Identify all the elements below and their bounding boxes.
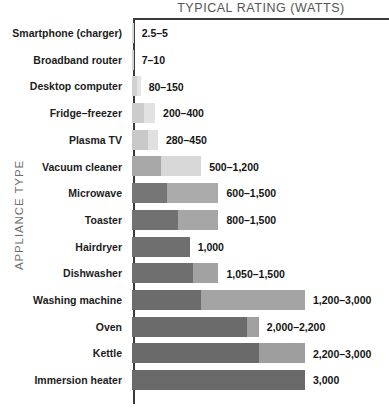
bar-area: 600–1,500: [128, 180, 389, 207]
bar-area: 3,000: [128, 367, 389, 394]
chart-row: Desktop computer80–150: [0, 73, 389, 100]
category-label: Kettle: [0, 348, 128, 359]
bar-segment-min: [132, 237, 190, 257]
bar-area: 500–1,200: [128, 153, 389, 180]
bar-value-label: 2,200–3,000: [313, 348, 371, 360]
bar-area: 1,200–3,000: [128, 287, 389, 314]
bar-value-label: 2,000–2,200: [267, 321, 325, 333]
bar-segment-max: [137, 76, 141, 96]
category-label: Immersion heater: [0, 375, 128, 386]
bar-segment-min: [132, 156, 161, 176]
chart-row: Toaster800–1,500: [0, 207, 389, 234]
bar-area: 1,050–1,500: [128, 260, 389, 287]
bar-area: 800–1,500: [128, 207, 389, 234]
bar-value-label: 800–1,500: [227, 214, 277, 226]
category-label: Broadband router: [0, 55, 128, 66]
bar-area: 80–150: [128, 73, 389, 100]
chart-row: Broadband router7–10: [0, 47, 389, 74]
bar-area: 7–10: [128, 47, 389, 74]
bar: [132, 343, 305, 363]
bar-segment-max: [167, 183, 219, 203]
category-label: Hairdryer: [0, 242, 128, 253]
bar-area: 2.5–5: [128, 20, 389, 47]
bar-value-label: 500–1,200: [209, 161, 259, 173]
chart-row: Washing machine1,200–3,000: [0, 287, 389, 314]
bar: [132, 23, 134, 43]
bar-area: 280–450: [128, 127, 389, 154]
bar-area: 200–400: [128, 100, 389, 127]
bar-segment-min: [132, 343, 259, 363]
chart-row: Dishwasher1,050–1,500: [0, 260, 389, 287]
bar-segment-min: [132, 23, 134, 43]
bar: [132, 317, 259, 337]
bar-segment-min: [132, 183, 167, 203]
bar: [132, 210, 218, 230]
bar-value-label: 600–1,500: [227, 187, 277, 199]
bar-segment-min: [132, 370, 305, 390]
bar-area: 2,200–3,000: [128, 340, 389, 367]
chart-row: Oven2,000–2,200: [0, 314, 389, 341]
bar: [132, 183, 218, 203]
bar-segment-min: [132, 290, 201, 310]
chart-row: Immersion heater3,000: [0, 367, 389, 394]
chart-row: Kettle2,200–3,000: [0, 340, 389, 367]
bar-value-label: 1,000: [198, 241, 224, 253]
bar: [132, 370, 305, 390]
bar-segment-max: [193, 263, 219, 283]
bar-value-label: 80–150: [149, 81, 184, 93]
bar: [132, 290, 305, 310]
chart-row: Hairdryer1,000: [0, 234, 389, 261]
chart-row: Microwave600–1,500: [0, 180, 389, 207]
bar: [132, 263, 218, 283]
category-label: Microwave: [0, 188, 128, 199]
bar-segment-max: [148, 130, 158, 150]
category-label: Smartphone (charger): [0, 28, 128, 39]
bar-area: 2,000–2,200: [128, 314, 389, 341]
category-label: Toaster: [0, 215, 128, 226]
bar-segment-min: [132, 317, 247, 337]
bar-area: 1,000: [128, 234, 389, 261]
bar-value-label: 200–400: [163, 107, 204, 119]
bar: [132, 237, 190, 257]
category-label: Vacuum cleaner: [0, 162, 128, 173]
bar-segment-max: [161, 156, 201, 176]
category-label: Desktop computer: [0, 81, 128, 92]
bar-value-label: 1,200–3,000: [313, 294, 371, 306]
bar-segment-max: [201, 290, 305, 310]
bar-segment-min: [132, 103, 144, 123]
chart-row: Plasma TV280–450: [0, 127, 389, 154]
bar-value-label: 7–10: [142, 54, 165, 66]
chart-container: TYPICAL RATING (WATTS) APPLIANCE TYPE Sm…: [0, 0, 389, 408]
bar-segment-max: [247, 317, 259, 337]
bar-value-label: 1,050–1,500: [227, 268, 285, 280]
bar-value-label: 3,000: [313, 374, 339, 386]
chart-row: Smartphone (charger)2.5–5: [0, 20, 389, 47]
bar-segment-min: [132, 263, 193, 283]
bar: [132, 76, 141, 96]
bar: [132, 50, 134, 70]
bar: [132, 103, 155, 123]
chart-row: Vacuum cleaner500–1,200: [0, 153, 389, 180]
bar: [132, 130, 158, 150]
category-label: Oven: [0, 322, 128, 333]
bar-segment-max: [259, 343, 305, 363]
bar-value-label: 280–450: [166, 134, 207, 146]
category-label: Dishwasher: [0, 268, 128, 279]
bar-segment-min: [132, 50, 134, 70]
bar: [132, 156, 201, 176]
chart-row: Fridge–freezer200–400: [0, 100, 389, 127]
bar-segment-min: [132, 130, 148, 150]
category-label: Plasma TV: [0, 135, 128, 146]
bar-rows: Smartphone (charger)2.5–5Broadband route…: [0, 20, 389, 394]
bar-segment-max: [178, 210, 218, 230]
bar-segment-max: [144, 103, 156, 123]
bar-value-label: 2.5–5: [142, 27, 168, 39]
category-label: Washing machine: [0, 295, 128, 306]
chart-title: TYPICAL RATING (WATTS): [133, 1, 389, 15]
category-label: Fridge–freezer: [0, 108, 128, 119]
bar-segment-min: [132, 210, 178, 230]
